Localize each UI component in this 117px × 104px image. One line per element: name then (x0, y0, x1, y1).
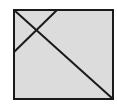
geometry-diagram (0, 0, 117, 104)
